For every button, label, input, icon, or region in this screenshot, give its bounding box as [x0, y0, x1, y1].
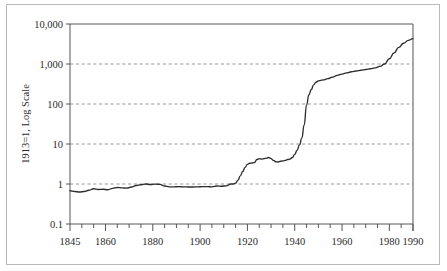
gridlines-group: [70, 64, 413, 184]
y-tick-labels-group: 10,0001,0001001010.1: [34, 19, 63, 230]
x-tick-label: 1845: [60, 236, 81, 247]
y-tick-label: 10,000: [34, 19, 63, 30]
x-tick-label: 1920: [237, 236, 258, 247]
x-tick-label: 1900: [190, 236, 211, 247]
y-tick-label: 10: [53, 139, 64, 150]
data-series-line: [70, 39, 413, 192]
y-tick-label: 1: [58, 179, 63, 190]
y-tick-label: 0.1: [50, 219, 63, 230]
plot-axes: [70, 24, 413, 224]
x-tick-label: 1980: [379, 236, 400, 247]
x-tick-label: 1990: [403, 236, 424, 247]
x-tick-label: 1880: [142, 236, 163, 247]
figure-root: 10,0001,0001001010.1 1845186018801900192…: [0, 0, 447, 271]
y-tick-label: 100: [47, 99, 63, 110]
y-tick-marks-group: [66, 24, 70, 224]
data-series-group: [70, 39, 413, 192]
x-tick-labels-group: 184518601880190019201940196019801990: [60, 236, 424, 247]
x-tick-label: 1960: [332, 236, 353, 247]
x-tick-label: 1860: [95, 236, 116, 247]
x-tick-marks-group: [70, 224, 413, 231]
y-tick-label: 1,000: [39, 59, 63, 70]
log-scale-line-chart: 10,0001,0001001010.1 1845186018801900192…: [0, 0, 447, 271]
y-axis-title: 1913=1, Log Scale: [20, 84, 31, 164]
x-tick-label: 1940: [284, 236, 305, 247]
